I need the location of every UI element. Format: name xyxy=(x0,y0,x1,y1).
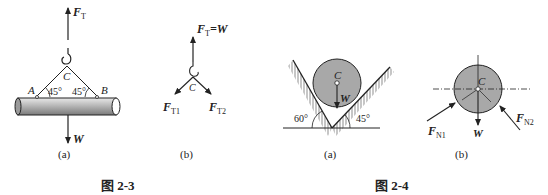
label-point-c: C xyxy=(63,70,71,82)
label-weight: W xyxy=(73,132,85,146)
caption-figure-2-4: 图 2-4 xyxy=(375,175,409,194)
sublabel-2-4a: (a) xyxy=(324,148,337,161)
label-ft1: FT1 xyxy=(162,100,180,116)
label-weight: W xyxy=(340,92,351,104)
force-ft2-arrow xyxy=(193,77,211,94)
sublabel-2-4b: (b) xyxy=(455,148,468,161)
figure-canvas: FT C A B 45° 45° W (a) FT=W C FT1 FT2 (b… xyxy=(0,0,548,195)
fig-2-4b-diagram xyxy=(427,55,530,130)
force-fn1-arrow xyxy=(427,103,455,121)
label-angle-60: 60° xyxy=(294,113,308,124)
label-point-c: C xyxy=(478,75,486,87)
label-point-a: A xyxy=(27,84,35,96)
label-fn2: FN2 xyxy=(515,111,534,127)
label-fn1: FN1 xyxy=(427,124,446,140)
label-point-b: B xyxy=(101,84,108,96)
label-point-c: C xyxy=(189,82,196,93)
caption-figure-2-3: 图 2-3 xyxy=(101,175,135,194)
label-ft: FT xyxy=(72,5,86,21)
sublabel-2-3b: (b) xyxy=(180,148,193,161)
hook-icon xyxy=(190,62,199,76)
cylinder-body xyxy=(18,98,116,115)
label-angle-left: 45° xyxy=(48,86,62,97)
sublabel-2-3a: (a) xyxy=(58,148,71,161)
label-angle-45: 45° xyxy=(356,113,370,124)
label-weight: W xyxy=(473,127,484,139)
label-angle-right: 45° xyxy=(72,86,86,97)
cylinder-end xyxy=(112,98,120,115)
label-ft2: FT2 xyxy=(208,100,226,116)
label-point-c: C xyxy=(334,69,342,81)
hook-icon xyxy=(62,48,71,64)
label-ft-eq-w: FT=W xyxy=(196,22,229,38)
